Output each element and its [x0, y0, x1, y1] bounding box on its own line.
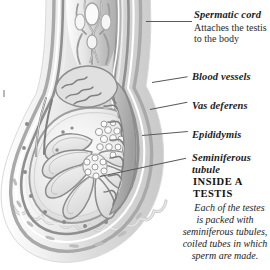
label-seminiferous-tubule-line2: tubule: [192, 164, 220, 176]
anatomy-figure: Spermatic cord Attaches the testis to th…: [0, 0, 270, 270]
label-vas-deferens: Vas deferens: [192, 100, 248, 112]
label-seminiferous-tubule-line1: Seminiferous: [192, 152, 251, 164]
label-spermatic-cord: Spermatic cord: [194, 9, 261, 21]
label-spermatic-cord-description-line2: to the body: [194, 33, 239, 45]
label-epididymis: Epididymis: [192, 129, 241, 141]
callout-heading-line1: INSIDE A: [193, 176, 270, 189]
spermatic-cord-structure: [66, 0, 120, 66]
callout-heading-line2: TESTIS: [193, 188, 270, 201]
leader-line-spermatic-cord: [146, 21, 192, 22]
callout-body-text: Each of the testes is packed with semini…: [182, 202, 268, 262]
label-blood-vessels: Blood vessels: [192, 71, 251, 83]
label-spermatic-cord-description-line1: Attaches the testis: [194, 22, 267, 34]
testis-cross-section-illustration: [0, 0, 190, 270]
